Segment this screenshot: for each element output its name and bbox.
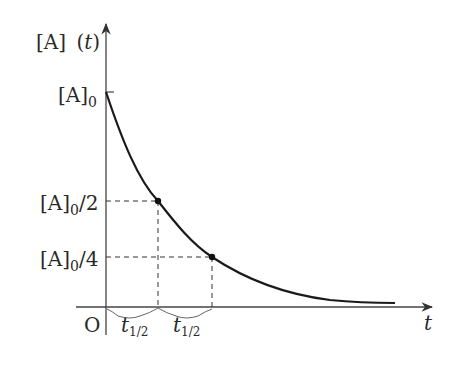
half-life-point-2 [209, 254, 215, 260]
x-axis-label: t [424, 311, 433, 335]
half-life-decay-diagram: [A] (t) [A]0 [A]0/2 [A]0/4 O t1/2 t1/2 t [0, 0, 461, 365]
a0-label: [A]0 [58, 83, 97, 110]
y-axis-label: [A] (t) [36, 30, 100, 54]
dashed-guides [106, 201, 212, 307]
decay-curve [106, 92, 395, 303]
a0-quarter-label: [A]0/4 [40, 247, 98, 274]
a0-half-label: [A]0/2 [40, 191, 98, 218]
origin-label: O [84, 313, 100, 337]
half-life-point-1 [155, 198, 161, 204]
half-life-label-1: t1/2 [121, 313, 148, 339]
